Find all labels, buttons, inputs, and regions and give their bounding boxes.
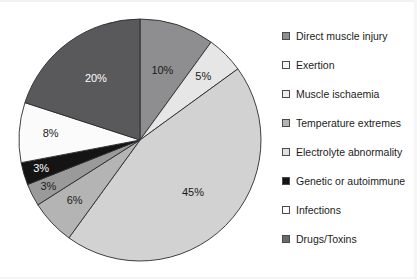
- legend-item-label: Electrolyte abnormality: [296, 146, 402, 158]
- pie-slice-label: 6%: [67, 194, 83, 206]
- legend-item[interactable]: Genetic or autoimmune: [278, 166, 417, 195]
- pie-slice-label: 3%: [33, 162, 49, 174]
- legend-swatch-icon: [282, 177, 290, 185]
- legend-item-label: Exertion: [296, 59, 335, 71]
- legend-item-label: Muscle ischaemia: [296, 88, 379, 100]
- legend-swatch-icon: [282, 90, 290, 98]
- pie-slice-label: 8%: [43, 127, 59, 139]
- legend-item[interactable]: Electrolyte abnormality: [278, 137, 417, 166]
- legend-item-label: Direct muscle injury: [296, 30, 388, 42]
- legend-item-label: Genetic or autoimmune: [296, 175, 405, 187]
- legend-swatch-icon: [282, 235, 290, 243]
- pie-plot-area: 10%5%45%6%3%3%8%20%: [0, 0, 278, 279]
- legend-swatch-icon: [282, 119, 290, 127]
- legend-item[interactable]: Drugs/Toxins: [278, 224, 417, 253]
- legend-swatch-icon: [282, 148, 290, 156]
- legend-swatch-icon: [282, 61, 290, 69]
- legend-item[interactable]: Muscle ischaemia: [278, 79, 417, 108]
- legend-swatch-icon: [282, 206, 290, 214]
- pie-svg: 10%5%45%6%3%3%8%20%: [0, 0, 278, 279]
- pie-slice-label: 3%: [40, 180, 56, 192]
- legend-item[interactable]: Direct muscle injury: [278, 21, 417, 50]
- legend-item[interactable]: Infections: [278, 195, 417, 224]
- pie-slice-label: 20%: [85, 72, 107, 84]
- legend-item[interactable]: Exertion: [278, 50, 417, 79]
- legend-swatch-icon: [282, 32, 290, 40]
- pie-chart-figure: 10%5%45%6%3%3%8%20% Direct muscle injury…: [0, 0, 417, 279]
- chart-legend: Direct muscle injuryExertionMuscle ischa…: [278, 0, 417, 279]
- pie-slices-group: [19, 19, 261, 261]
- pie-slice-label: 45%: [182, 186, 204, 198]
- legend-item-label: Drugs/Toxins: [296, 233, 357, 245]
- pie-slice-label: 10%: [151, 64, 173, 76]
- legend-item-label: Temperature extremes: [296, 117, 401, 129]
- pie-slice-label: 5%: [195, 70, 211, 82]
- legend-item[interactable]: Temperature extremes: [278, 108, 417, 137]
- legend-item-label: Infections: [296, 204, 341, 216]
